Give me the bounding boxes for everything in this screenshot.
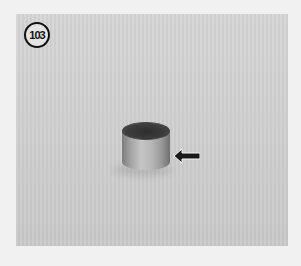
- arrow-left-icon: [174, 149, 200, 163]
- figure-number-badge: 103: [24, 22, 50, 48]
- figure-number-text: 103: [29, 29, 44, 41]
- bushing-top: [122, 122, 170, 140]
- figure-photo: 103: [16, 14, 288, 246]
